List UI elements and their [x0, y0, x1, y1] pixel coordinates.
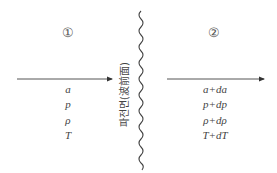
region-2-pressure: p+dp	[203, 98, 227, 110]
region-2-label: ②	[208, 25, 220, 40]
region-2-temperature: T+dT	[202, 129, 227, 141]
region-1-label: ①	[62, 25, 74, 40]
diagram-canvas	[0, 0, 277, 173]
region-2-density: ρ+dρ	[203, 114, 226, 126]
region-1-speed-of-sound: a	[65, 83, 71, 95]
wave-front-label: 파전면(波前面)	[116, 62, 131, 127]
region-2-speed-of-sound: a+da	[203, 83, 227, 95]
wave-front-line	[139, 11, 143, 170]
region-1-temperature: T	[65, 129, 71, 141]
region-1-density: ρ	[65, 114, 70, 126]
region-1-pressure: p	[65, 98, 71, 110]
